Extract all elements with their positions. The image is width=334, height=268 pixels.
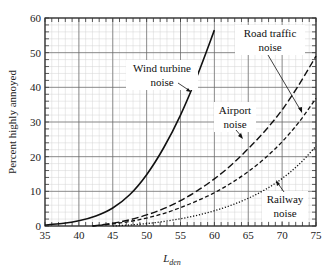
x-tick-label: 45 [107,229,119,241]
annotation-airport-line1: Airport [219,104,251,116]
annotation-wind-turbine-line2: noise [150,76,173,88]
annotation-road-traffic: Road traffic noise [235,25,305,113]
x-tick-label: 35 [40,229,52,241]
annotation-airport-line2: noise [223,118,246,130]
annotation-railway: Railway noise [262,180,308,221]
annotation-arrow [268,55,301,111]
y-axis-title: Percent highly annoyed [6,70,18,174]
y-tick-label: 30 [30,116,42,128]
y-tick-label: 60 [30,12,42,24]
annotation-railway-line1: Railway [267,193,304,205]
y-tick-label: 40 [30,81,42,93]
annotation-wind-turbine: Wind turbine noise [126,60,198,92]
annotation-road-traffic-line2: noise [258,41,281,53]
x-tick-label: 55 [175,229,187,241]
y-tick-labels: 0102030405060 [30,12,42,232]
y-tick-label: 10 [30,185,42,197]
x-tick-labels: 354045505560657075 [40,229,323,241]
x-axis-title: Lden [162,252,181,267]
x-tick-label: 50 [141,229,153,241]
noise-annoyance-chart: 354045505560657075 0102030405060 Wind tu… [0,0,334,268]
x-tick-label: 65 [243,229,255,241]
y-tick-label: 0 [36,220,42,232]
annotation-railway-line2: noise [273,207,296,219]
x-tick-label: 70 [277,229,289,241]
annotation-wind-turbine-line1: Wind turbine [133,62,191,74]
x-tick-label: 40 [73,229,85,241]
x-tick-label: 75 [311,229,323,241]
y-tick-label: 50 [30,47,42,59]
y-tick-label: 20 [30,151,42,163]
arrowhead-icon [298,107,302,113]
annotation-airport: Airport noise [214,102,256,139]
annotation-road-traffic-line1: Road traffic [244,27,297,39]
x-tick-label: 60 [209,229,221,241]
